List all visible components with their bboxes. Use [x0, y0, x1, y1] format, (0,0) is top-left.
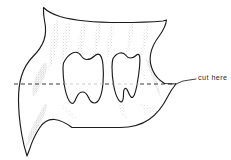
figure-root: cut here [0, 0, 231, 160]
specimen-illustration [0, 0, 231, 160]
cut-here-label: cut here [198, 74, 228, 81]
leader-line [176, 79, 196, 84]
